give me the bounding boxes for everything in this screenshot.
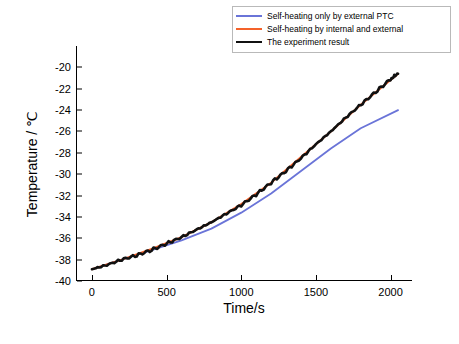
- y-tick-label: -22: [55, 83, 77, 95]
- y-tick-mark: [77, 88, 82, 89]
- y-axis-title: Temperature / ℃: [24, 44, 40, 284]
- y-tick-mark: [77, 281, 82, 282]
- series-experiment: [92, 74, 398, 270]
- y-tick-mark: [77, 216, 82, 217]
- y-tick-label: -32: [55, 190, 77, 202]
- y-tick-label: -24: [55, 104, 77, 116]
- legend-label-external-ptc: Self-heating only by external PTC: [267, 11, 394, 21]
- x-tick-label: 2000: [378, 280, 402, 298]
- plot-inner: -20-22-24-26-28-30-32-34-36-38-400500100…: [77, 46, 412, 280]
- y-tick-label: -38: [55, 254, 77, 266]
- y-tick-label: -36: [55, 232, 77, 244]
- y-tick-label: -26: [55, 125, 77, 137]
- legend-item-internal-external: Self-heating by internal and external: [236, 23, 447, 35]
- x-tick-label: 1500: [304, 280, 328, 298]
- legend-swatch-internal-external: [236, 28, 262, 30]
- x-tick-label: 500: [157, 280, 175, 298]
- series-external-ptc: [92, 110, 398, 269]
- x-tick-label: 1000: [229, 280, 253, 298]
- y-tick-mark: [77, 174, 82, 175]
- x-axis-title: Time/s: [76, 300, 412, 316]
- legend-label-internal-external: Self-heating by internal and external: [267, 24, 403, 34]
- y-tick-mark: [77, 67, 82, 68]
- y-tick-label: -34: [55, 211, 77, 223]
- y-tick-mark: [77, 152, 82, 153]
- legend-swatch-external-ptc: [236, 15, 262, 17]
- y-tick-label: -30: [55, 168, 77, 180]
- y-tick-label: -20: [55, 61, 77, 73]
- plot-area: -20-22-24-26-28-30-32-34-36-38-400500100…: [76, 46, 412, 281]
- series-internal-external: [92, 74, 398, 269]
- series-svg: [77, 46, 413, 281]
- x-tick-label: 0: [89, 280, 95, 298]
- y-tick-mark: [77, 238, 82, 239]
- y-tick-mark: [77, 195, 82, 196]
- chart-container: Self-heating only by external PTC Self-h…: [0, 0, 459, 344]
- y-tick-label: -40: [55, 275, 77, 287]
- y-tick-mark: [77, 131, 82, 132]
- y-tick-mark: [77, 259, 82, 260]
- y-tick-label: -28: [55, 147, 77, 159]
- y-tick-mark: [77, 110, 82, 111]
- legend-item-external-ptc: Self-heating only by external PTC: [236, 10, 447, 22]
- legend-swatch-experiment: [236, 41, 262, 43]
